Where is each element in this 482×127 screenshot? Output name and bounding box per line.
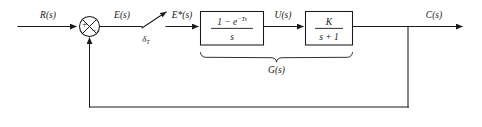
summing-junction-minus-sign: − <box>92 25 97 35</box>
label-control-us: U(s) <box>275 10 292 21</box>
label-error-es: E(s) <box>113 10 130 21</box>
zoh-numerator-base: 1 − e <box>217 17 237 27</box>
zoh-denominator: s <box>230 32 234 42</box>
summing-junction-plus-sign: + <box>82 19 87 29</box>
plant-denominator: s + 1 <box>319 32 339 42</box>
label-group-gs: G(s) <box>268 65 285 76</box>
sampler-switch-arm <box>142 12 166 28</box>
label-sampled-error-es-star: E*(s) <box>171 10 193 21</box>
zoh-numerator-exponent: −Ts <box>237 15 247 22</box>
label-input-rs: R(s) <box>39 10 56 21</box>
block-diagram-svg: + − 1 − e−Ts s K s + 1 <box>0 0 482 127</box>
plant-numerator: K <box>325 17 333 27</box>
block-diagram-canvas: + − 1 − e−Ts s K s + 1 <box>0 0 482 127</box>
sampler-delta-subscript: T <box>146 39 150 45</box>
group-brace <box>201 53 353 63</box>
label-sampler-delta-t: δT <box>142 34 150 45</box>
label-output-cs: C(s) <box>426 10 442 21</box>
